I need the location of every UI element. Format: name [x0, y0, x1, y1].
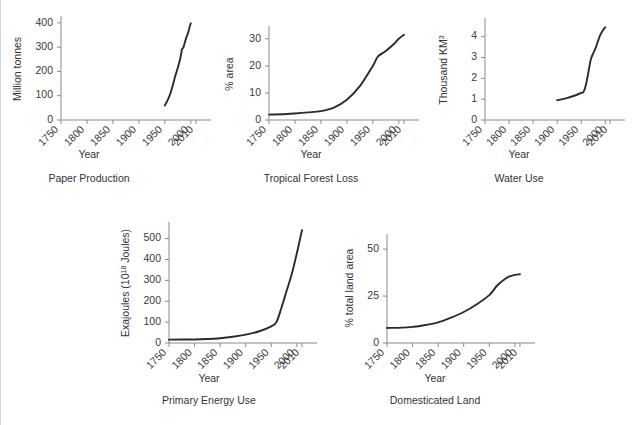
x-tick-label: 1750	[35, 123, 60, 148]
panel-title-paper-production: Paper Production	[0, 172, 195, 184]
y-axis-title: Million tonnes	[11, 37, 23, 101]
y-tick-label: 300	[143, 273, 161, 285]
chart-panel-water-use: 012341750180018501900195020002010Thousan…	[425, 2, 637, 192]
x-tick-label: 1900	[438, 346, 463, 371]
x-tick-label: 1800	[387, 346, 412, 371]
x-tick-label: 2010	[276, 346, 301, 371]
x-axis-title-3: Year	[103, 372, 315, 384]
plot-paper-production: 0100200300400175018001850190019502000201…	[1, 2, 213, 152]
y-tick-label: 200	[143, 294, 161, 306]
x-tick-label: 2010	[494, 346, 519, 371]
data-series-line	[169, 230, 302, 339]
x-tick-label: 1850	[508, 123, 533, 148]
data-series-line	[387, 274, 520, 328]
chart-panel-tropical-forest-loss: 01020301750180018501900195020002010% are…	[213, 2, 425, 192]
chart-panel-domesticated-land: 025501750180018501900195020002010% total…	[331, 208, 543, 408]
plot-primary-energy-use: 0100200300400500175018001850190019502000…	[107, 208, 319, 360]
y-tick-label: 0	[471, 113, 477, 125]
x-tick-label: 1850	[413, 346, 438, 371]
x-tick-label: 2010	[170, 123, 195, 148]
y-tick-label: 200	[35, 64, 53, 76]
plot-domesticated-land: 025501750180018501900195020002010% total…	[331, 208, 543, 360]
panel-title-primary-energy-use: Primary Energy Use	[103, 394, 315, 406]
x-tick-label: 1900	[321, 123, 346, 148]
x-tick-label: 1750	[243, 123, 268, 148]
x-tick-label: 1900	[532, 123, 557, 148]
y-axis-title: % area	[223, 57, 235, 90]
x-axis-title-1: Year	[205, 148, 417, 160]
y-tick-label: 2	[471, 71, 477, 83]
x-tick-label: 1950	[246, 346, 271, 371]
y-tick-label: 0	[155, 336, 161, 348]
x-tick-label: 1800	[483, 123, 508, 148]
x-tick-label: 1800	[61, 123, 86, 148]
y-tick-label: 400	[35, 16, 53, 28]
x-tick-label: 1750	[143, 346, 168, 371]
x-tick-label: 1950	[347, 123, 372, 148]
plot-water-use: 012341750180018501900195020002010Thousan…	[425, 2, 637, 152]
y-tick-label: 0	[373, 336, 379, 348]
data-series-line	[269, 35, 404, 115]
panel-title-tropical-forest-loss: Tropical Forest Loss	[205, 172, 417, 184]
x-tick-label: 1850	[195, 346, 220, 371]
y-tick-label: 10	[249, 86, 261, 98]
chart-panel-primary-energy-use: 0100200300400500175018001850190019502000…	[107, 208, 319, 408]
y-tick-label: 0	[47, 113, 53, 125]
x-tick-label: 1750	[361, 346, 386, 371]
x-tick-label: 1750	[459, 123, 484, 148]
x-tick-label: 1950	[556, 123, 581, 148]
y-tick-label: 400	[143, 252, 161, 264]
x-axis-title-0: Year	[0, 148, 195, 160]
data-series-line	[557, 27, 605, 100]
x-tick-label: 2010	[584, 123, 609, 148]
y-tick-label: 100	[35, 88, 53, 100]
x-tick-label: 1950	[464, 346, 489, 371]
y-tick-label: 3	[471, 50, 477, 62]
y-tick-label: 20	[249, 59, 261, 71]
x-tick-label: 1800	[269, 123, 294, 148]
y-axis-title: Exajoules (1018 Joules)	[119, 229, 131, 337]
x-tick-label: 1950	[139, 123, 164, 148]
x-axis-title-4: Year	[329, 372, 541, 384]
y-tick-label: 25	[367, 289, 379, 301]
chart-panel-paper-production: 0100200300400175018001850190019502000201…	[1, 2, 213, 192]
y-tick-label: 1	[471, 92, 477, 104]
x-tick-label: 1800	[169, 346, 194, 371]
y-tick-label: 100	[143, 315, 161, 327]
y-tick-label: 300	[35, 40, 53, 52]
y-axis-title: % total land area	[343, 248, 355, 327]
x-axis-title-2: Year	[413, 148, 625, 160]
y-tick-label: 0	[255, 113, 261, 125]
figure-panel-container: 0100200300400175018001850190019502000201…	[0, 0, 637, 425]
x-tick-label: 1900	[220, 346, 245, 371]
data-series-line	[165, 23, 191, 105]
plot-tropical-forest-loss: 01020301750180018501900195020002010% are…	[213, 2, 425, 152]
x-tick-label: 2010	[378, 123, 403, 148]
y-tick-label: 30	[249, 32, 261, 44]
x-tick-label: 1850	[295, 123, 320, 148]
x-tick-label: 1900	[113, 123, 138, 148]
y-tick-label: 500	[143, 231, 161, 243]
panel-title-domesticated-land: Domesticated Land	[329, 394, 541, 406]
panel-title-water-use: Water Use	[413, 172, 625, 184]
y-tick-label: 4	[471, 29, 477, 41]
y-axis-title: Thousand KM3	[437, 35, 449, 104]
x-tick-label: 1850	[87, 123, 112, 148]
y-tick-label: 50	[367, 242, 379, 254]
